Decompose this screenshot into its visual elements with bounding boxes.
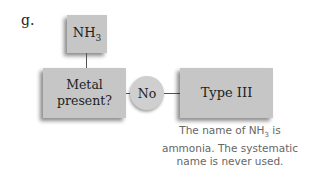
start-node-formula: NH3 xyxy=(73,25,101,44)
connector-to-result xyxy=(164,93,180,94)
note-line3: name is never used. xyxy=(160,155,300,168)
explanatory-note: The name of NH3 is ammonia. The systemat… xyxy=(160,124,300,168)
branch-no-circle: No xyxy=(130,76,164,110)
decision-line1: Metal xyxy=(57,77,112,93)
result-label: Type III xyxy=(201,85,253,101)
item-label: g. xyxy=(21,12,34,28)
note-line1: The name of NH3 is xyxy=(160,124,300,142)
note-line2: ammonia. The systematic xyxy=(160,142,300,155)
result-node-type-iii: Type III xyxy=(180,68,273,118)
decision-line2: present? xyxy=(57,93,112,109)
connector-vertical xyxy=(86,53,87,68)
branch-label: No xyxy=(138,86,156,101)
decision-node-metal-present: Metal present? xyxy=(43,68,126,118)
start-node-nh3: NH3 xyxy=(67,15,107,53)
